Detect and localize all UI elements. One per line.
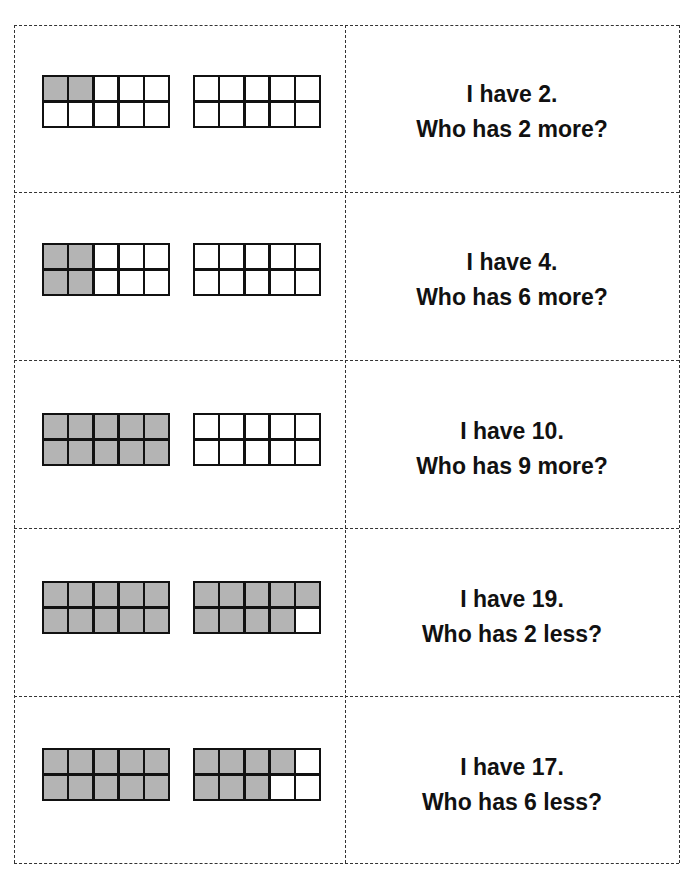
ten-frames: [42, 243, 322, 297]
empty-cell: [220, 77, 243, 100]
ten-frame-1: [42, 243, 170, 296]
filled-cell: [145, 776, 168, 799]
empty-cell: [220, 415, 243, 438]
card-3: I have 10. Who has 9 more?: [14, 360, 679, 528]
empty-cell: [271, 415, 294, 438]
empty-cell: [195, 271, 218, 294]
who-has-text: Who has 6 less?: [345, 785, 679, 820]
filled-cell: [44, 441, 67, 464]
who-has-text: Who has 2 less?: [345, 617, 679, 652]
filled-cell: [220, 776, 243, 799]
empty-cell: [145, 77, 168, 100]
empty-cell: [296, 776, 319, 799]
filled-cell: [120, 776, 143, 799]
have-text: I have 10.: [345, 414, 679, 449]
empty-cell: [120, 77, 143, 100]
filled-cell: [44, 776, 67, 799]
filled-cell: [271, 609, 294, 632]
empty-cell: [246, 77, 269, 100]
empty-cell: [246, 245, 269, 268]
filled-cell: [220, 609, 243, 632]
empty-cell: [44, 103, 67, 126]
filled-cell: [246, 583, 269, 606]
empty-cell: [69, 103, 92, 126]
ten-frame-1: [42, 75, 170, 128]
empty-cell: [220, 103, 243, 126]
ten-frames: [42, 75, 322, 129]
filled-cell: [44, 271, 67, 294]
empty-cell: [220, 441, 243, 464]
filled-cell: [195, 776, 218, 799]
ten-frames: [42, 748, 322, 802]
ten-frame-2: [193, 581, 321, 634]
ten-frame-1: [42, 748, 170, 801]
empty-cell: [296, 271, 319, 294]
empty-cell: [120, 271, 143, 294]
filled-cell: [145, 583, 168, 606]
card-text: I have 4. Who has 6 more?: [345, 245, 679, 315]
empty-cell: [120, 103, 143, 126]
card-sheet: I have 2. Who has 2 more? I have 4. Who …: [14, 25, 679, 863]
empty-cell: [296, 609, 319, 632]
ten-frames: [42, 413, 322, 467]
ten-frame-1: [42, 413, 170, 466]
empty-cell: [195, 245, 218, 268]
filled-cell: [69, 776, 92, 799]
who-has-text: Who has 6 more?: [345, 280, 679, 315]
filled-cell: [69, 77, 92, 100]
filled-cell: [246, 750, 269, 773]
empty-cell: [271, 271, 294, 294]
filled-cell: [220, 583, 243, 606]
empty-cell: [145, 271, 168, 294]
filled-cell: [120, 441, 143, 464]
empty-cell: [220, 271, 243, 294]
empty-cell: [271, 441, 294, 464]
empty-cell: [195, 103, 218, 126]
empty-cell: [120, 245, 143, 268]
ten-frame-2: [193, 413, 321, 466]
empty-cell: [296, 103, 319, 126]
filled-cell: [195, 609, 218, 632]
have-text: I have 2.: [345, 77, 679, 112]
empty-cell: [95, 245, 118, 268]
filled-cell: [95, 750, 118, 773]
cut-line-right: [679, 25, 680, 863]
empty-cell: [271, 103, 294, 126]
have-text: I have 19.: [345, 582, 679, 617]
empty-cell: [271, 776, 294, 799]
filled-cell: [120, 415, 143, 438]
filled-cell: [44, 750, 67, 773]
filled-cell: [44, 77, 67, 100]
empty-cell: [296, 77, 319, 100]
filled-cell: [69, 441, 92, 464]
filled-cell: [95, 776, 118, 799]
card-2: I have 4. Who has 6 more?: [14, 193, 679, 361]
ten-frame-2: [193, 75, 321, 128]
filled-cell: [246, 776, 269, 799]
ten-frame-2: [193, 243, 321, 296]
filled-cell: [44, 609, 67, 632]
empty-cell: [296, 415, 319, 438]
who-has-text: Who has 2 more?: [345, 112, 679, 147]
filled-cell: [220, 750, 243, 773]
filled-cell: [95, 441, 118, 464]
empty-cell: [296, 441, 319, 464]
empty-cell: [95, 271, 118, 294]
card-4: I have 19. Who has 2 less?: [14, 528, 679, 696]
filled-cell: [271, 583, 294, 606]
empty-cell: [296, 750, 319, 773]
empty-cell: [195, 441, 218, 464]
empty-cell: [246, 271, 269, 294]
filled-cell: [44, 583, 67, 606]
empty-cell: [246, 103, 269, 126]
empty-cell: [246, 415, 269, 438]
have-text: I have 4.: [345, 245, 679, 280]
filled-cell: [69, 583, 92, 606]
filled-cell: [120, 609, 143, 632]
filled-cell: [69, 750, 92, 773]
empty-cell: [271, 77, 294, 100]
filled-cell: [120, 583, 143, 606]
filled-cell: [195, 583, 218, 606]
ten-frame-1: [42, 581, 170, 634]
ten-frames: [42, 581, 322, 635]
